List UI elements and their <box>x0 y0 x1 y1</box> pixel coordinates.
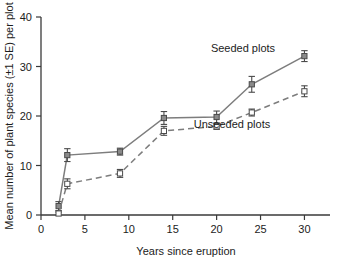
x-axis-ticks: 051015202530 <box>38 215 311 235</box>
series-label: Unseeded plots <box>194 118 271 130</box>
y-tick-label: 20 <box>20 110 32 122</box>
x-tick-label: 20 <box>211 223 223 235</box>
data-point-marker <box>65 153 70 158</box>
data-point-marker <box>161 128 166 133</box>
data-point-marker <box>56 211 61 216</box>
data-point-marker <box>302 89 307 94</box>
y-tick-label: 10 <box>20 160 32 172</box>
y-tick-label: 40 <box>20 11 32 23</box>
line-chart: 010203040 051015202530 Seeded plotsUnsee… <box>0 0 337 265</box>
x-tick-label: 25 <box>254 223 266 235</box>
data-point-marker <box>65 181 70 186</box>
series-line-seeded-plots <box>59 56 305 206</box>
data-series-group <box>55 51 307 216</box>
data-point-marker <box>249 82 254 87</box>
y-tick-label: 0 <box>26 209 32 221</box>
data-point-marker <box>117 171 122 176</box>
y-axis-title: Mean number of plant species (±1 SE) per… <box>3 2 15 229</box>
x-tick-label: 30 <box>298 223 310 235</box>
x-tick-label: 10 <box>123 223 135 235</box>
data-point-marker <box>117 149 122 154</box>
x-axis-title: Years since eruption <box>136 245 235 257</box>
series-label: Seeded plots <box>211 42 276 54</box>
series-line-unseeded-plots <box>59 91 305 213</box>
data-point-marker <box>161 115 166 120</box>
y-tick-label: 30 <box>20 61 32 73</box>
data-point-marker <box>249 110 254 115</box>
y-axis-ticks: 010203040 <box>20 11 41 221</box>
x-tick-label: 5 <box>82 223 88 235</box>
x-tick-label: 15 <box>167 223 179 235</box>
axes <box>41 17 330 215</box>
chart-figure: 010203040 051015202530 Seeded plotsUnsee… <box>0 0 337 265</box>
data-point-marker <box>302 54 307 59</box>
x-tick-label: 0 <box>38 223 44 235</box>
